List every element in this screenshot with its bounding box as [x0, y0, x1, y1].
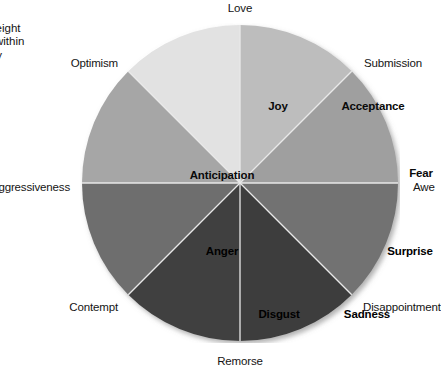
wedge-label-anger: Anger — [206, 245, 238, 257]
wedge-label-surprise: Surprise — [387, 245, 432, 257]
emotion-wheel — [80, 23, 400, 343]
wedge-label-joy: Joy — [268, 100, 287, 112]
dyad-label-love: Love — [228, 2, 252, 14]
dyad-label-awe: Awe — [413, 181, 435, 193]
dyad-label-aggressiveness: Aggressiveness — [0, 181, 70, 193]
wedge-label-disgust: Disgust — [258, 308, 299, 320]
dyad-label-disappointment: Disappointment — [363, 301, 441, 313]
wheel-divider-group — [82, 25, 398, 341]
wedge-label-acceptance: Acceptance — [341, 100, 404, 112]
dyad-label-optimism: Optimism — [71, 57, 118, 69]
wedge-label-fear: Fear — [409, 167, 433, 179]
wedge-label-anticipation: Anticipation — [190, 169, 255, 181]
dyad-label-contempt: Contempt — [69, 301, 118, 313]
emotion-wheel-svg — [80, 23, 400, 343]
dyad-label-remorse: Remorse — [217, 355, 263, 367]
dyad-label-submission: Submission — [364, 57, 422, 69]
figure-caption-title: ns — [0, 8, 106, 22]
